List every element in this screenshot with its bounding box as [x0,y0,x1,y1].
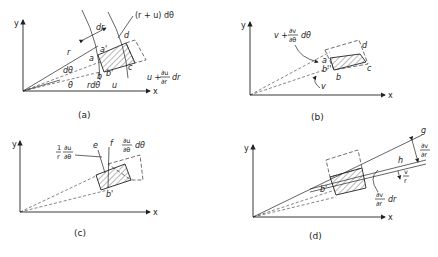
v-over-r-angle [398,171,400,179]
y-axis-label: y [244,144,249,153]
y-axis-label: y [241,21,246,30]
label-g: g [421,126,426,135]
label-r: r [57,153,60,161]
panel-c: y x e f 1 r ∂u ∂θ ∂u ∂θ dθ b' (c) [12,137,158,238]
line-h-lower [310,164,426,192]
line-h-upper [310,160,426,189]
x-axis-label: x [388,91,393,100]
label-b: b [336,73,341,82]
label-dv2: ∂v [376,191,383,199]
label-a: a [89,54,94,63]
panel-b: y x v + ∂v ∂θ dθ a d c b'' b v (b) [241,21,393,122]
label-dr: dr [96,23,105,32]
label-d: d [362,41,368,50]
radial-line-upper [253,190,335,217]
label-h: h [398,156,403,165]
label-b-prime: b' [106,69,113,78]
y-axis-label: y [14,19,19,28]
label-f: f [110,139,114,148]
label-dtheta-suffix: dθ [301,31,311,40]
leader-v [315,76,320,88]
label-du2: ∂u [123,137,130,145]
caption-c: (c) [74,228,86,238]
label-dr-den: ∂r [421,151,427,159]
label-b-prime: b' [106,190,113,199]
panel-a: y x dr r (r + u) dθ a a' d c b b' dθ θ r… [14,10,181,120]
panel-d: y x g h ∂v ∂r v r ∂v ∂r dr b' (d) [244,126,430,241]
x-axis-label: x [153,87,158,96]
label-r: r [404,177,407,185]
label-dv: ∂v [421,142,428,150]
label-r-dtheta: rdθ [87,81,100,90]
radial-line-upper [250,52,330,95]
label-dtheta-den: ∂θ [289,36,296,44]
polar-strain-diagram: y x dr r (r + u) dθ a a' d c b b' dθ θ r… [0,0,438,257]
dv-dr-angle [412,140,418,162]
label-dtheta-suffix: dθ [135,141,145,150]
label-u-plus: u + [147,73,161,82]
x-axis-label: x [153,208,158,217]
caption-d: (d) [309,231,322,241]
label-b-dprime: b'' [322,65,331,74]
radial-line-theta [23,80,60,91]
label-dr-den: ∂r [161,78,167,86]
label-one: 1 [57,144,61,152]
label-dtheta-den2: ∂θ [123,146,130,154]
label-dr-suffix: dr [388,195,397,204]
label-b-prime: b' [320,185,327,194]
label-r-plus-u-dtheta: (r + u) dθ [135,11,174,20]
label-du: ∂u [64,144,71,152]
caption-b: (b) [311,112,324,122]
label-dv: ∂v [289,27,296,35]
radial-line-lower [253,197,336,217]
label-v: v [404,168,408,176]
label-du: ∂u [161,69,168,77]
label-a-prime: a' [100,45,107,54]
caption-a: (a) [78,110,91,120]
label-c: c [367,64,372,73]
radial-line-lower [250,68,330,95]
label-dr-den2: ∂r [376,200,382,208]
radial-line-lower [20,190,108,212]
arc-r [82,10,100,80]
label-b: b [97,72,102,81]
label-dtheta: dθ [63,66,73,75]
label-a: a [322,56,327,65]
label-c: c [128,63,133,72]
label-d: d [124,31,130,40]
label-v: v [321,82,326,91]
label-u: u [112,81,117,90]
line-e [98,150,105,173]
label-dtheta-den: ∂θ [64,153,71,161]
label-dr-suffix: dr [172,73,181,82]
radial-line-upper [20,176,96,212]
label-r: r [67,48,71,57]
label-e: e [93,141,98,150]
x-axis-label: x [388,213,393,222]
y-axis-label: y [12,140,17,149]
leader-v-plus [295,45,318,62]
label-v-plus: v + [274,31,288,40]
leader-e [75,155,102,157]
label-theta: θ [68,81,73,90]
